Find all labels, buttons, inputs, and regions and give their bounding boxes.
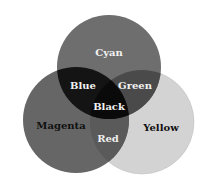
label-yellow: Yellow xyxy=(142,122,179,133)
label-red: Red xyxy=(97,133,119,144)
label-magenta: Magenta xyxy=(36,120,86,131)
venn-diagram: Cyan Blue Green Black Magenta Red Yellow xyxy=(0,0,202,184)
label-green: Green xyxy=(118,80,153,91)
label-blue: Blue xyxy=(70,80,96,91)
label-black: Black xyxy=(93,101,126,112)
label-cyan: Cyan xyxy=(95,47,123,58)
